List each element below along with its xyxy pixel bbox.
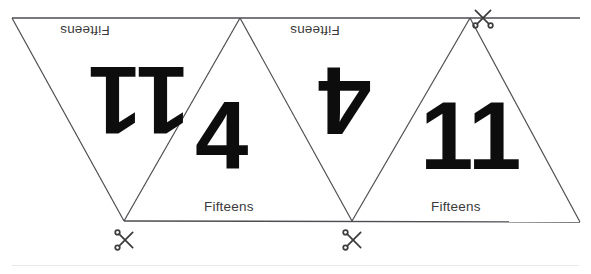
triangle-2-label: Fifteens bbox=[204, 199, 254, 214]
page-bottom-divider bbox=[12, 265, 579, 266]
triangle-4-number: 11 bbox=[420, 88, 521, 184]
scissors-icon-bottom-left bbox=[111, 227, 137, 253]
triangle-4-label: Fifteens bbox=[431, 199, 481, 214]
triangle-3-label: Fifteens bbox=[290, 23, 340, 38]
scissors-icon-top-right bbox=[470, 6, 496, 32]
flashcard-sheet: Fifteens 11 4 Fifteens Fifteens 4 11 Fif… bbox=[0, 0, 591, 274]
edge-bottom bbox=[124, 221, 580, 222]
scissors-icon-bottom-middle bbox=[339, 227, 365, 253]
triangle-2-number: 4 bbox=[195, 88, 248, 184]
triangle-1-label: Fifteens bbox=[60, 23, 110, 38]
triangle-1-number: 11 bbox=[88, 52, 189, 148]
triangle-3-number: 4 bbox=[318, 52, 371, 148]
